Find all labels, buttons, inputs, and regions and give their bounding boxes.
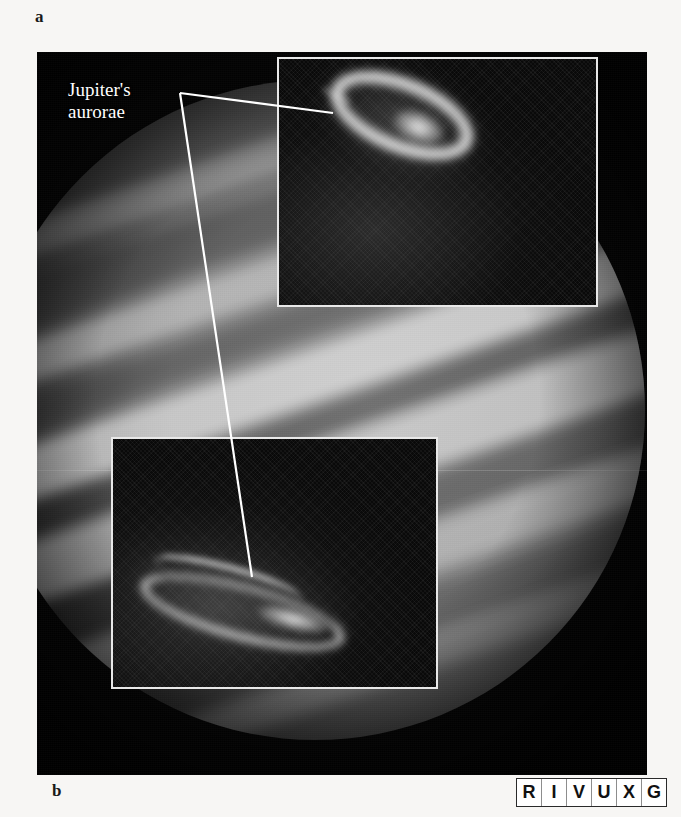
northern-aurora-inset — [277, 57, 598, 307]
callout-line-2: aurorae — [68, 101, 131, 123]
rivuxg-cell-r: R — [517, 779, 542, 806]
rivuxg-wavelength-indicator: R I V U X G — [516, 778, 667, 807]
aurorae-callout-label: Jupiter's aurorae — [68, 79, 131, 124]
rivuxg-cell-g: G — [642, 779, 666, 806]
southern-aurora-inset — [111, 437, 438, 689]
rivuxg-cell-i: I — [542, 779, 567, 806]
rivuxg-cell-v: V — [567, 779, 592, 806]
panel-label-b: b — [52, 782, 61, 799]
rivuxg-cell-x: X — [617, 779, 642, 806]
callout-line-1: Jupiter's — [68, 79, 131, 101]
jupiter-photograph: Jupiter's aurorae — [37, 52, 647, 775]
rivuxg-cell-u: U — [592, 779, 617, 806]
panel-label-a: a — [35, 8, 44, 25]
figure-page: a — [0, 0, 681, 817]
